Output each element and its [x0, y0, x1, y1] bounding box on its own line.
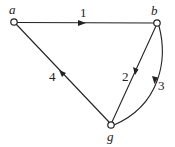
- node-a-label: a: [9, 2, 16, 17]
- graph-svg: 1 2 3 4 a b g: [0, 0, 175, 147]
- node-circle-icon: [154, 20, 160, 26]
- edge-2: 2: [112, 26, 156, 122]
- node-circle-icon: [11, 19, 17, 25]
- node-a: a: [9, 2, 17, 25]
- edge-1-label: 1: [80, 5, 87, 20]
- edge-4: 4: [16, 24, 109, 122]
- node-circle-icon: [108, 122, 114, 128]
- edge-1: 1: [17, 5, 154, 26]
- edge-4-label: 4: [49, 69, 56, 84]
- node-g-label: g: [107, 129, 114, 144]
- edge-3-label: 3: [158, 78, 165, 93]
- arrow-right-icon: [78, 20, 86, 26]
- directed-graph-diagram: 1 2 3 4 a b g: [0, 0, 175, 147]
- node-g: g: [107, 122, 114, 144]
- node-b-label: b: [151, 3, 158, 18]
- edge-2-label: 2: [122, 69, 129, 84]
